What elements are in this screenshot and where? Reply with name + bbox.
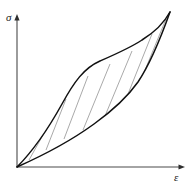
hatch-fill-group xyxy=(29,19,166,160)
y-axis-group: σ xyxy=(6,11,20,167)
x-axis-label: ε xyxy=(174,171,179,183)
loading-curve-upper xyxy=(17,12,170,167)
hatch-line-4 xyxy=(83,64,110,130)
hatch-line-6 xyxy=(126,34,152,99)
stress-strain-diagram: σ ε xyxy=(0,0,195,186)
y-axis-arrow-icon xyxy=(14,14,19,21)
x-axis-arrow-icon xyxy=(179,164,186,169)
loop-curves-group xyxy=(17,12,170,167)
hatch-line-5 xyxy=(105,51,132,116)
unloading-curve-lower xyxy=(17,12,170,167)
y-axis-label: σ xyxy=(6,11,12,23)
x-axis-group: ε xyxy=(17,164,185,183)
hatch-line-3 xyxy=(64,76,88,139)
figure-container: σ ε xyxy=(0,0,195,186)
